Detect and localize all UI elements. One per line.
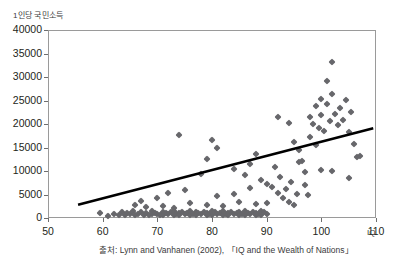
x-axis-tick-mark — [212, 218, 213, 222]
y-axis-tick-label: 25000 — [0, 94, 42, 106]
x-axis-tick-mark — [157, 218, 158, 222]
x-axis-tick-label: 60 — [88, 225, 118, 237]
x-axis-tick-label: 110 — [361, 225, 391, 237]
source-citation: 출처: Lynn and Vanhanen (2002), 「IQ and th… — [99, 243, 354, 255]
x-axis-tick-label: 90 — [252, 225, 282, 237]
y-axis-tick-label: 5000 — [0, 188, 42, 200]
x-axis-title: IQ — [367, 228, 375, 237]
x-axis-tick-label: 100 — [306, 225, 336, 237]
x-axis-tick-label: 70 — [142, 225, 172, 237]
y-axis-tick-label: 30000 — [0, 70, 42, 82]
plot-frame — [48, 30, 376, 218]
x-axis-tick-mark — [321, 218, 322, 222]
x-axis-tick-label: 80 — [197, 225, 227, 237]
chart-container: 1인당 국민소득 0500010000150002000025000300003… — [0, 0, 396, 261]
x-axis-tick-mark — [103, 218, 104, 222]
y-axis-tick-label: 40000 — [0, 23, 42, 35]
x-axis-tick-mark — [267, 218, 268, 222]
y-axis-tick-label: 0 — [0, 211, 42, 223]
x-axis-tick-mark — [376, 218, 377, 222]
y-axis-tick-label: 35000 — [0, 47, 42, 59]
y-axis-tick-label: 15000 — [0, 141, 42, 153]
x-axis-tick-mark — [48, 218, 49, 222]
x-axis-tick-label: 50 — [33, 225, 63, 237]
y-axis-title: 1인당 국민소득 — [13, 9, 63, 20]
y-axis-tick-label: 20000 — [0, 117, 42, 129]
y-axis-tick-label: 10000 — [0, 164, 42, 176]
plot-area — [48, 30, 376, 218]
